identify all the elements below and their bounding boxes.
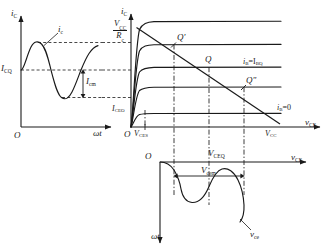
q-point-markers xyxy=(171,43,246,91)
left-plot-icq-label: ICQ xyxy=(1,64,12,73)
q-point-upper-label: Q' xyxy=(177,33,185,42)
ic-leader-line xyxy=(44,33,58,46)
left-plot-icm-label: Icm xyxy=(86,77,96,86)
cross-plot-dashed-links xyxy=(102,43,131,98)
characteristic-curve-ib-zero xyxy=(131,113,281,127)
main-plot-axes xyxy=(131,14,320,127)
main-plot-y-axis-label: iC xyxy=(121,7,127,16)
bottom-plot-vce-curve-label: vce xyxy=(250,230,259,239)
main-plot-y-intercept-label: VCC Rc xyxy=(113,19,127,42)
bottom-plot-vcem-label: Vcem xyxy=(201,166,216,175)
bottom-plot-y-axis-label: ωt xyxy=(151,232,160,241)
characteristic-curve-ibq xyxy=(131,67,281,127)
characteristic-curve-lower xyxy=(131,87,281,127)
icm-dimension-arrow xyxy=(81,69,86,98)
main-plot-iceo-label: ICEO xyxy=(112,105,125,113)
left-plot-ic-curve-label: ic xyxy=(58,25,63,34)
bottom-plot-origin-label: O xyxy=(145,152,152,161)
left-plot-axes xyxy=(21,16,111,127)
dc-load-line xyxy=(137,28,281,125)
figure-canvas xyxy=(0,0,328,250)
left-plot-reference-lines xyxy=(21,43,102,98)
main-plot-vces-label: VCES xyxy=(134,130,148,138)
bottom-plot-vceq-label: VCEQ xyxy=(208,149,225,158)
base-current-zero-label: iB=0 xyxy=(277,104,291,112)
left-plot-y-axis-label: iC xyxy=(11,9,17,18)
main-plot-origin-label: O xyxy=(124,130,131,139)
bottom-plot-x-axis-label: vCE xyxy=(291,153,302,162)
q-point-lower-label: Q" xyxy=(246,76,256,85)
main-plot-x-axis-label: vCE xyxy=(305,118,316,127)
left-plot-origin-label: O xyxy=(14,131,21,140)
q-point-center-label: Q xyxy=(205,55,212,64)
main-plot-vcc-label: VCC xyxy=(265,130,277,138)
left-plot-x-axis-label: ωt xyxy=(93,129,102,138)
base-current-ibq-label: iB=IBQ xyxy=(243,58,263,66)
bottom-plot-axes xyxy=(160,162,306,243)
